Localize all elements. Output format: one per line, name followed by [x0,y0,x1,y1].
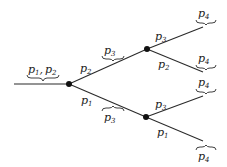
lower-node [143,114,149,120]
root-node [66,81,72,87]
edge-label-upper-p2: p2 [158,58,170,72]
edge-lower-bottom [146,117,203,141]
input-label: p1,p2 [28,63,57,77]
edge-label-p1: p1 [81,94,93,108]
edge-label-lower-p3: p3 [155,98,167,112]
leaf-label-2: p4 [198,52,210,66]
upper-node [144,46,150,52]
edge-label-p2: p2 [80,62,92,76]
leaf-label-1: p4 [198,7,210,21]
leaf-label-4: p4 [198,150,210,164]
brace-label-p3-lower: p3 [104,111,116,125]
brace-label-p3-upper: p3 [104,44,116,58]
leaf-label-3: p4 [198,76,210,90]
edge-label-upper-p3: p3 [155,30,167,44]
tree-diagram: p1,p2 p2 p1 p3 p3 p3 p2 p3 p1 p4 p4 p4 p… [0,0,227,167]
edge-upper-bottom [147,49,203,72]
edge-label-lower-p1: p1 [157,126,169,140]
